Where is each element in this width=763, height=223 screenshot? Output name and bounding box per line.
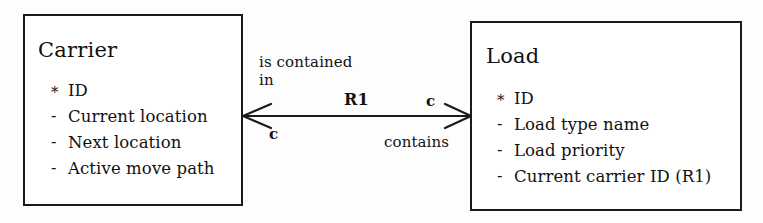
attribute-label: Current location bbox=[68, 104, 208, 130]
relationship-id-label: R1 bbox=[344, 91, 369, 109]
attribute-label: Load priority bbox=[514, 138, 625, 164]
attribute-row: - Next location bbox=[51, 130, 215, 156]
attribute-label: Next location bbox=[68, 130, 181, 156]
attribute-dash-icon: - bbox=[497, 111, 514, 137]
entity-box-carrier[interactable]: Carrier * ID - Current location - Next l… bbox=[23, 14, 243, 206]
attribute-dash-icon: - bbox=[51, 129, 68, 155]
identifier-star-icon: * bbox=[497, 87, 514, 113]
attribute-label: ID bbox=[68, 78, 88, 104]
attribute-label: Active move path bbox=[68, 156, 215, 182]
entity-title-carrier: Carrier bbox=[38, 40, 117, 61]
attribute-list-carrier: * ID - Current location - Next location … bbox=[51, 78, 215, 182]
entity-title-load: Load bbox=[486, 46, 539, 67]
attribute-dash-icon: - bbox=[51, 155, 68, 181]
relationship-phrase-forward-line2: in bbox=[259, 71, 352, 89]
attribute-dash-icon: - bbox=[497, 137, 514, 163]
attribute-row: - Current location bbox=[51, 104, 215, 130]
relationship-phrase-reverse: contains bbox=[384, 133, 449, 151]
multiplicity-label-left: c bbox=[269, 125, 278, 143]
relationship-phrase-forward: is contained in bbox=[259, 53, 352, 89]
attribute-dash-icon: - bbox=[497, 163, 514, 189]
attribute-row: - Load priority bbox=[497, 138, 711, 164]
attribute-row: - Current carrier ID (R1) bbox=[497, 164, 711, 190]
entity-box-load[interactable]: Load * ID - Load type name - Load priori… bbox=[470, 21, 742, 211]
attribute-dash-icon: - bbox=[51, 103, 68, 129]
attribute-row: * ID bbox=[497, 86, 711, 112]
attribute-label: Load type name bbox=[514, 112, 649, 138]
multiplicity-label-right: c bbox=[426, 92, 435, 110]
attribute-label: Current carrier ID (R1) bbox=[514, 164, 711, 190]
diagram-canvas: Carrier * ID - Current location - Next l… bbox=[0, 0, 763, 223]
relationship-phrase-forward-line1: is contained bbox=[259, 53, 352, 71]
attribute-row: * ID bbox=[51, 78, 215, 104]
attribute-row: - Active move path bbox=[51, 156, 215, 182]
attribute-label: ID bbox=[514, 86, 534, 112]
attribute-list-load: * ID - Load type name - Load priority - … bbox=[497, 86, 711, 190]
identifier-star-icon: * bbox=[51, 79, 68, 105]
attribute-row: - Load type name bbox=[497, 112, 711, 138]
